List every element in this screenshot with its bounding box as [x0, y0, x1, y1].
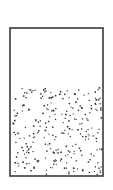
particle-dot	[15, 115, 16, 116]
particle-dot	[26, 157, 27, 158]
particle-dot	[89, 172, 90, 173]
particle-dot	[33, 125, 35, 127]
particle-dot	[46, 108, 47, 109]
particle-dot	[24, 167, 26, 169]
particle-dot	[55, 136, 56, 137]
particle-dot	[79, 148, 80, 149]
particle-dot	[100, 108, 101, 109]
particle-dot	[15, 98, 17, 100]
particle-dot	[68, 171, 69, 172]
particle-dot	[29, 163, 30, 164]
particle-dot	[101, 117, 103, 119]
particle-dot	[17, 163, 18, 164]
particle-dot	[81, 123, 82, 124]
container-outline	[10, 28, 103, 176]
particle-dot	[67, 154, 68, 155]
particle-dot	[68, 133, 69, 134]
particle-dot	[28, 109, 29, 110]
particle-dot	[26, 163, 27, 164]
particle-dot	[94, 171, 95, 172]
particle-dot	[62, 98, 63, 99]
particle-dot	[95, 91, 97, 93]
particle-dot	[16, 115, 17, 116]
particle-dot	[80, 150, 82, 152]
particle-dot	[14, 120, 16, 122]
particle-dot	[23, 95, 25, 97]
particle-dot	[91, 108, 93, 110]
particle-dot	[48, 134, 49, 135]
particle-dot	[101, 166, 102, 167]
particle-dot	[68, 173, 69, 174]
particle-dot	[88, 134, 89, 135]
particle-dot	[33, 167, 35, 169]
particle-dot	[55, 114, 56, 115]
particle-dot	[69, 103, 70, 104]
particle-dot	[49, 97, 50, 98]
particle-dot	[67, 126, 69, 128]
particle-dot	[44, 137, 45, 138]
particle-dot	[91, 128, 92, 129]
particle-dot	[52, 135, 53, 136]
particle-dot	[95, 98, 96, 99]
particle-dot	[96, 138, 97, 139]
particle-dot	[71, 157, 72, 158]
particle-dot	[88, 138, 89, 139]
particle-dot	[22, 111, 23, 112]
particle-dot	[54, 139, 55, 140]
particle-dot	[30, 146, 31, 147]
particle-dot	[84, 95, 85, 96]
particle-dot	[72, 129, 73, 130]
particle-dot	[53, 151, 55, 153]
particle-dot	[29, 135, 30, 136]
particle-dot	[81, 155, 82, 156]
particle-dot	[45, 130, 47, 132]
particle-dot	[96, 141, 97, 142]
particle-dot	[45, 158, 46, 159]
particle-dot	[79, 123, 80, 124]
particle-dot	[16, 156, 17, 157]
particle-dot	[70, 115, 71, 116]
particle-dot	[46, 127, 47, 128]
particle-dot	[78, 89, 79, 90]
particle-dot	[86, 118, 87, 119]
particle-dot	[93, 155, 94, 156]
particle-dot	[63, 122, 64, 123]
particle-dot	[74, 118, 75, 119]
particle-dot	[29, 89, 30, 90]
particle-dot	[64, 167, 66, 169]
particle-dot	[52, 127, 53, 128]
particle-dot	[58, 149, 59, 150]
particle-dot	[52, 97, 53, 98]
particle-dot	[82, 136, 83, 137]
particle-dot	[85, 136, 87, 138]
particle-dot	[15, 134, 16, 135]
particle-dot	[43, 105, 45, 107]
particle-dot	[77, 129, 79, 131]
particle-dot	[13, 123, 14, 124]
particle-dot	[61, 132, 62, 133]
particle-dot	[97, 174, 98, 175]
particle-dot	[80, 133, 81, 134]
particle-dot	[15, 142, 16, 143]
particle-dot	[89, 159, 90, 160]
particle-dot	[22, 161, 24, 163]
particle-dot	[61, 158, 63, 160]
particle-dot	[66, 168, 67, 169]
particle-dot	[97, 149, 98, 150]
particle-dot	[89, 135, 90, 136]
diagram-canvas	[0, 0, 113, 190]
particle-dot	[82, 169, 84, 171]
particle-dot	[40, 126, 41, 127]
particle-dot	[26, 97, 27, 98]
particle-dot	[100, 170, 101, 171]
particle-dot	[86, 131, 87, 132]
particle-dot	[95, 166, 96, 167]
particle-dot	[73, 113, 74, 114]
particle-dot	[43, 89, 44, 90]
particle-dot	[40, 93, 41, 94]
particle-dot	[55, 119, 56, 120]
particle-dot	[32, 90, 33, 91]
particle-dot	[74, 168, 75, 169]
particle-dot	[35, 90, 36, 91]
particle-dot	[28, 152, 29, 153]
